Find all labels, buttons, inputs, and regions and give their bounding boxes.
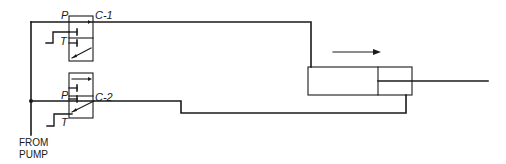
source-label-line1: FROM	[19, 137, 48, 148]
c1-output-line	[31, 22, 311, 67]
tank-symbol-c2	[47, 114, 72, 126]
valve-c1-output-label: C-1	[95, 9, 113, 21]
arrow-right-icon	[333, 49, 381, 55]
valve-c1-tank-label: T	[60, 35, 68, 47]
valve-c2-output-label: C-2	[95, 91, 113, 103]
hydraulic-cylinder	[308, 67, 488, 95]
valve-c2	[47, 73, 94, 126]
valve-c1-pressure-label: P	[61, 9, 69, 21]
source-label-line2: PUMP	[19, 149, 48, 160]
hydraulic-circuit-diagram: P C-1 T P C-2 T FROM PUMP	[0, 0, 506, 164]
valve-c2-tank-label: T	[61, 116, 69, 128]
valve-c2-pressure-label: P	[61, 89, 69, 101]
